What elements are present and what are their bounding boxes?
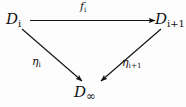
node-d-i: Di [6, 12, 21, 29]
node-d-i-plus-1-subscript: i+1 [167, 18, 185, 29]
edge-label-f-i-subscript: i [84, 5, 86, 14]
node-d-i-plus-1-base: D [155, 10, 167, 28]
node-d-infinity-subscript: ∞ [86, 89, 96, 103]
node-d-i-base: D [6, 10, 18, 28]
edge-label-eta-i-plus-1-base: η [122, 56, 129, 69]
commutative-diagram: Di Di+1 D∞ fi ηi ηi+1 [0, 0, 186, 107]
node-d-i-subscript: i [18, 18, 21, 29]
node-d-i-plus-1: Di+1 [155, 12, 185, 29]
node-d-infinity: D∞ [74, 85, 96, 103]
edge-label-eta-i: ηi [32, 56, 41, 68]
edge-label-eta-i-subscript: i [39, 60, 41, 69]
edge-label-f-i: fi [80, 1, 87, 13]
arrow-eta-i-plus-1 [101, 29, 161, 81]
edge-label-eta-i-base: η [32, 55, 39, 68]
node-d-infinity-base: D [74, 83, 86, 101]
edge-label-eta-i-plus-1: ηi+1 [122, 57, 142, 69]
arrow-eta-i [22, 29, 82, 81]
edge-label-eta-i-plus-1-subscript: i+1 [129, 61, 142, 70]
